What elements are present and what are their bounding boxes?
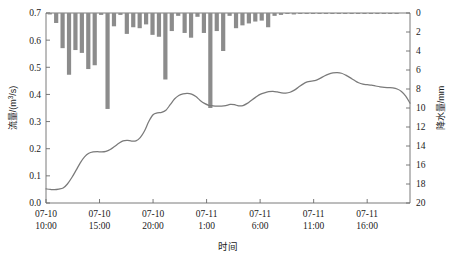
x-axis-title: 时间 (218, 241, 238, 252)
x-axis-tick-label-date: 07-10 (142, 209, 164, 219)
precipitation-bar (343, 13, 347, 14)
precipitation-bar (388, 13, 392, 14)
precipitation-bar (118, 13, 122, 15)
rainfall-discharge-chart: 0.00.10.20.30.40.50.60.7 024681012141618… (0, 0, 456, 258)
precipitation-bar (105, 13, 109, 109)
left-axis-title: 流量/(m3/s) (7, 86, 18, 131)
x-axis-ticks: 07-1010:0007-1015:0007-1020:0007-111:000… (35, 199, 378, 231)
right-axis-tick-label: 16 (416, 160, 426, 170)
precipitation-bar (330, 13, 334, 14)
left-axis-tick-label: 0.4 (29, 90, 41, 100)
precipitation-bar (157, 13, 161, 37)
left-axis-tick-label: 0.7 (29, 8, 41, 18)
chart-canvas: 0.00.10.20.30.40.50.60.7 024681012141618… (0, 0, 456, 258)
right-axis-ticks: 02468101214161820 (406, 8, 426, 208)
precipitation-bar (125, 13, 129, 34)
precipitation-bar (279, 13, 283, 15)
precipitation-bar (150, 13, 154, 35)
right-axis-tick-label: 2 (416, 27, 421, 37)
x-axis-tick-label-date: 07-11 (249, 209, 271, 219)
x-axis-tick-label-time: 20:00 (142, 221, 164, 231)
precipitation-bar (170, 13, 174, 31)
right-axis-tick-label: 12 (416, 122, 426, 132)
left-axis-tick-label: 0.1 (29, 171, 41, 181)
right-axis-tick-label: 4 (416, 46, 421, 56)
precipitation-bar (189, 13, 193, 38)
precipitation-bar (305, 13, 309, 14)
precipitation-bar (93, 13, 97, 65)
precipitation-bar (80, 13, 84, 53)
precipitation-bar (298, 13, 302, 14)
precipitation-bar (395, 13, 399, 14)
precipitation-bar (183, 13, 187, 33)
precipitation-bar (350, 13, 354, 14)
precipitation-bar (112, 13, 116, 26)
precipitation-bar (221, 13, 225, 51)
x-axis-tick-label-date: 07-11 (303, 209, 325, 219)
precipitation-bar (292, 13, 296, 14)
axis-titles: 流量/(m3/s)降水量/mm时间 (7, 86, 446, 252)
precipitation-bar (285, 13, 289, 14)
precipitation-bar (234, 13, 238, 28)
x-axis-tick-label-time: 11:00 (303, 221, 325, 231)
left-axis-tick-label: 0.0 (29, 198, 41, 208)
precipitation-bar (311, 13, 315, 14)
discharge-line (46, 73, 410, 190)
precipitation-bar (369, 13, 373, 14)
right-axis-tick-label: 8 (416, 84, 421, 94)
x-axis-tick-label-time: 16:00 (356, 221, 378, 231)
precipitation-bar (163, 13, 167, 80)
right-axis-tick-label: 6 (416, 65, 421, 75)
left-axis-tick-label: 0.2 (29, 144, 41, 154)
right-axis-title: 降水量/mm (435, 86, 446, 131)
precipitation-bar (144, 13, 148, 24)
right-axis-tick-label: 20 (416, 198, 426, 208)
x-axis-tick-label-date: 07-11 (356, 209, 378, 219)
precipitation-bar (67, 13, 71, 75)
precipitation-bar (176, 13, 180, 16)
x-axis-tick-label-time: 15:00 (89, 221, 111, 231)
discharge-line-path (46, 73, 410, 190)
precipitation-bar (48, 13, 52, 14)
precipitation-bar (54, 13, 58, 23)
plot-frame (46, 13, 410, 203)
precipitation-bar (73, 13, 77, 50)
x-axis-tick-label-time: 1:00 (198, 221, 215, 231)
precipitation-bar (86, 13, 90, 69)
precipitation-bar (253, 13, 257, 22)
right-axis-tick-label: 18 (416, 179, 426, 189)
precipitation-bar (60, 13, 64, 48)
x-axis-tick-label-date: 07-10 (88, 209, 110, 219)
precipitation-bar (317, 13, 321, 14)
precipitation-bars (48, 13, 399, 109)
precipitation-bar (362, 13, 366, 14)
x-axis-tick-label-date: 07-11 (196, 209, 218, 219)
precipitation-bar (324, 13, 328, 14)
precipitation-bar (337, 13, 341, 14)
precipitation-bar (99, 13, 103, 15)
right-axis-tick-label: 0 (416, 8, 421, 18)
precipitation-bar (202, 13, 206, 33)
precipitation-bar (208, 13, 212, 108)
precipitation-bar (247, 13, 251, 23)
precipitation-bar (382, 13, 386, 14)
left-axis-tick-label: 0.6 (29, 36, 41, 46)
precipitation-bar (260, 13, 264, 21)
x-axis-tick-label-date: 07-10 (35, 209, 57, 219)
precipitation-bar (272, 13, 276, 16)
precipitation-bar (266, 13, 270, 27)
precipitation-bar (375, 13, 379, 14)
left-axis-ticks: 0.00.10.20.30.40.50.60.7 (29, 8, 50, 208)
precipitation-bar (240, 13, 244, 25)
precipitation-bar (356, 13, 360, 14)
left-axis-tick-label: 0.5 (29, 63, 41, 73)
precipitation-bar (228, 13, 232, 16)
right-axis-tick-label: 14 (416, 141, 426, 151)
precipitation-bar (215, 13, 219, 31)
x-axis-tick-label-time: 6:00 (252, 221, 269, 231)
left-axis-tick-label: 0.3 (29, 117, 41, 127)
right-axis-tick-label: 10 (416, 103, 426, 113)
x-axis-tick-label-time: 10:00 (35, 221, 57, 231)
precipitation-bar (131, 13, 135, 27)
precipitation-bar (195, 13, 199, 17)
